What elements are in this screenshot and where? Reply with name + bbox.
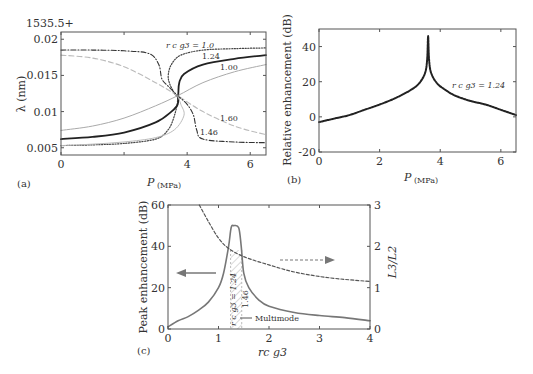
x-tick-label: 3 <box>316 332 323 345</box>
y-tick-label-right: 3 <box>374 199 381 212</box>
panel-b-axes <box>319 29 516 152</box>
x-tick-label: 2 <box>376 155 383 168</box>
x-tick-label: 4 <box>367 332 374 345</box>
y-tick-label: 20 <box>151 282 165 295</box>
annotation-1.46: 1.46 <box>200 128 218 137</box>
panel-b: 0246-2002040 Relative enhancement (dB) P… <box>281 14 516 185</box>
y-tick-label: 0 <box>158 323 165 336</box>
offset-label: 1535.5+ <box>26 17 74 30</box>
x-tick-label: 0 <box>316 155 323 168</box>
annotation-multimode: Multimode <box>255 314 299 323</box>
x-tick-label: 6 <box>497 155 504 168</box>
panel-a-label: (a) <box>17 178 31 189</box>
y-tick-label: 0.02 <box>34 33 59 46</box>
x-tick-label: 4 <box>184 158 191 171</box>
annotation-rcg3-1.24-c: r c g3 = 1.24 <box>229 273 238 326</box>
y-tick-label: 0.01 <box>34 106 59 119</box>
y-tick-label: 0 <box>309 111 316 124</box>
x-tick-label: 1 <box>215 332 222 345</box>
annotation-1.00: 1.00 <box>220 63 238 72</box>
panel-b-xlabel: P <box>403 171 412 184</box>
annotation-rcg3-1.24: r c g3 = 1.24 <box>452 81 505 90</box>
x-tick-label: 6 <box>247 158 254 171</box>
series-line-r-c-g-3-1-24 <box>319 36 516 122</box>
y-tick-label: -20 <box>298 146 316 159</box>
panel-b-series <box>319 36 516 122</box>
panel-c-series <box>168 205 370 327</box>
y-tick-label: 40 <box>151 240 165 253</box>
annotation-1.46-c: 1.46 <box>241 290 250 308</box>
panel-c-xlabel: rc g3 <box>258 346 287 359</box>
panel-a-xunit: (MPa) <box>157 181 181 190</box>
series-line-peak-enhancement <box>168 225 370 327</box>
panel-b-ticks: 0246-2002040 <box>298 29 516 168</box>
panel-b-ylabel: Relative enhancement (dB) <box>281 14 294 166</box>
panel-a-xlabel: P <box>146 176 155 189</box>
right-axis-arrow <box>280 256 335 264</box>
annotation-rcg3-1.0: r c g3 = 1.0 <box>166 41 214 50</box>
panel-c-ylabel: Peak enhancement (dB) <box>137 201 150 334</box>
left-axis-arrow <box>176 269 216 277</box>
x-tick-label: 4 <box>437 155 444 168</box>
panel-c-label: (c) <box>137 345 151 356</box>
y-tick-label-right: 0 <box>374 323 381 336</box>
y-tick-label-right: 2 <box>374 240 381 253</box>
panel-a-ylabel: λ (nm) <box>15 76 28 113</box>
panel-c: 0123402040600123 Peak enhancement (dB) L… <box>137 199 399 359</box>
y-tick-label: 40 <box>302 41 316 54</box>
figure: 1535.5+ 0460.0050.010.0150.02 λ (nm) P (… <box>0 0 533 374</box>
x-tick-label: 2 <box>266 332 273 345</box>
y-tick-label: 20 <box>302 76 316 89</box>
annotation-1.24: 1.24 <box>202 52 220 61</box>
y-tick-label: 0.015 <box>27 69 59 82</box>
annotation-1.60: 1.60 <box>220 114 238 123</box>
panel-b-label: (b) <box>287 174 301 185</box>
y-tick-label-right: 1 <box>374 282 381 295</box>
panel-b-xunit: (MPa) <box>414 176 438 185</box>
x-tick-label: 0 <box>58 158 65 171</box>
y-tick-label: 60 <box>151 199 165 212</box>
x-tick-label: 0 <box>165 332 172 345</box>
y-tick-label: 0.005 <box>27 142 59 155</box>
panel-a: 1535.5+ 0460.0050.010.0150.02 λ (nm) P (… <box>15 17 266 190</box>
panel-c-ylabel-right: L3/L2 <box>386 246 399 279</box>
